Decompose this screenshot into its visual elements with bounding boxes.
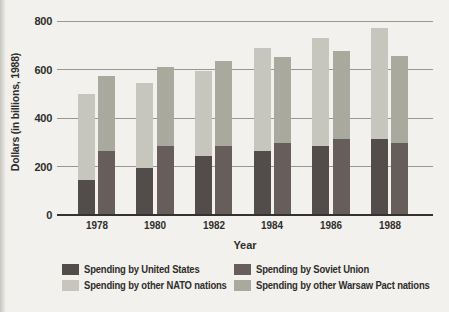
- textbook-chart-page: Dollars (in billions, 1988) 020040060080…: [0, 0, 449, 312]
- legend-label: Spending by other Warsaw Pact nations: [256, 279, 430, 291]
- legend-label: Spending by other NATO nations: [84, 279, 227, 291]
- legend-swatch: [62, 280, 79, 291]
- legend-item: Spending by other NATO nations: [62, 279, 250, 291]
- military-spending-bar-chart: Dollars (in billions, 1988) 020040060080…: [0, 0, 449, 312]
- legend: Spending by United StatesSpending by Sov…: [0, 0, 449, 312]
- legend-label: Spending by Soviet Union: [256, 263, 369, 275]
- legend-label: Spending by United States: [84, 263, 200, 275]
- legend-item: Spending by other Warsaw Pact nations: [234, 279, 449, 291]
- legend-item: Spending by Soviet Union: [234, 263, 387, 275]
- legend-swatch: [62, 264, 79, 275]
- legend-swatch: [234, 280, 251, 291]
- legend-swatch: [234, 264, 251, 275]
- legend-item: Spending by United States: [62, 263, 218, 275]
